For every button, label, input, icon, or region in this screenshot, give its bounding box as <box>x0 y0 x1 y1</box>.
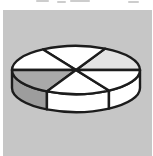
cropped-text-artifact <box>0 0 153 4</box>
scanned-page <box>0 0 153 156</box>
pie-chart-3d <box>3 10 152 156</box>
chart-background <box>3 10 152 156</box>
